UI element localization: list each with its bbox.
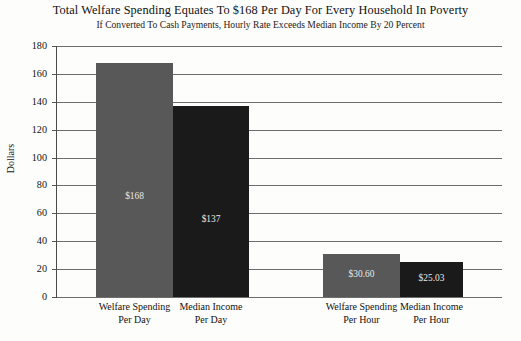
y-axis-tick-mark [52, 185, 56, 186]
bar: $25.03 [400, 262, 463, 297]
gridline [57, 297, 502, 298]
y-axis-tick-label: 80 [17, 180, 47, 190]
category-label-line-2: Per Day [151, 314, 271, 327]
y-axis-tick-label: 60 [17, 208, 47, 218]
title-block: Total Welfare Spending Equates To $168 P… [0, 3, 521, 31]
y-axis-tick-label: 140 [17, 97, 47, 107]
bar: $168 [96, 63, 173, 297]
y-axis-tick-label: 40 [17, 236, 47, 246]
y-axis-tick-labels: 020406080100120140160180 [13, 0, 47, 341]
bar-value-label: $168 [96, 191, 173, 201]
y-axis-tick-label: 180 [17, 41, 47, 51]
y-axis-tick-mark [52, 74, 56, 75]
bar-value-label: $30.60 [323, 269, 400, 279]
category-label-line-1: Median Income [372, 301, 492, 314]
y-axis-tick-mark [52, 158, 56, 159]
chart-subtitle: If Converted To Cash Payments, Hourly Ra… [0, 18, 521, 31]
x-axis-category-label: Median IncomePer Day [151, 301, 271, 326]
category-label-line-1: Median Income [151, 301, 271, 314]
y-axis-tick-label: 100 [17, 153, 47, 163]
bar-chart: Total Welfare Spending Equates To $168 P… [0, 0, 521, 341]
plot-area: $168$137$30.60$25.03 [57, 46, 502, 297]
y-axis-tick-label: 160 [17, 69, 47, 79]
y-axis-tick-mark [52, 213, 56, 214]
x-axis-category-label: Median IncomePer Hour [372, 301, 492, 326]
y-axis-tick-label: 20 [17, 264, 47, 274]
bar-value-label: $25.03 [400, 273, 463, 283]
bar: $30.60 [323, 254, 400, 297]
y-axis-tick-mark [52, 130, 56, 131]
bar-value-label: $137 [173, 214, 249, 224]
y-axis-tick-mark [52, 46, 56, 47]
chart-title: Total Welfare Spending Equates To $168 P… [0, 3, 521, 18]
gridline [57, 46, 502, 47]
bar: $137 [173, 106, 249, 297]
y-axis-tick-label: 120 [17, 125, 47, 135]
y-axis-tick-mark [52, 102, 56, 103]
y-axis-tick-label: 0 [17, 292, 47, 302]
y-axis-tick-mark [52, 297, 56, 298]
category-label-line-2: Per Hour [372, 314, 492, 327]
y-axis-tick-mark [52, 241, 56, 242]
y-axis-tick-mark [52, 269, 56, 270]
